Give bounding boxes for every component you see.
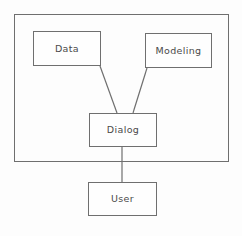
node-data[interactable]: Data	[33, 31, 101, 66]
edge-modeling-dialog	[133, 68, 147, 113]
node-dialog[interactable]: Dialog	[89, 113, 157, 147]
node-modeling[interactable]: Modeling	[145, 33, 212, 68]
node-dialog-label: Dialog	[107, 125, 139, 135]
node-modeling-label: Modeling	[155, 46, 201, 56]
diagram-canvas: Data Modeling Dialog User	[0, 0, 242, 236]
node-user-label: User	[111, 194, 134, 204]
edge-data-dialog	[100, 66, 117, 113]
node-user[interactable]: User	[88, 182, 157, 216]
node-data-label: Data	[55, 44, 79, 54]
